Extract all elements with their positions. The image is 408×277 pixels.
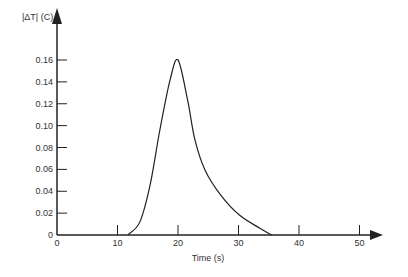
y-tick-label: 0.06 bbox=[35, 164, 53, 174]
y-tick-label: 0.02 bbox=[35, 208, 53, 218]
x-axis-title: Time (s) bbox=[192, 253, 225, 263]
y-tick-label: 0.10 bbox=[35, 121, 53, 131]
x-tick-label: 40 bbox=[294, 238, 304, 248]
y-tick-label: 0.04 bbox=[35, 186, 53, 196]
y-tick-label: 0.12 bbox=[35, 99, 53, 109]
x-axis-arrow-icon bbox=[370, 230, 383, 240]
x-tick-label: 10 bbox=[112, 238, 122, 248]
y-tick-label: 0.16 bbox=[35, 55, 53, 65]
ticks: 0102030405000.020.040.060.080.100.120.14… bbox=[35, 55, 364, 248]
x-tick-label: 0 bbox=[54, 238, 59, 248]
x-tick-label: 50 bbox=[354, 238, 364, 248]
y-axis-title: |ΔT| (C) bbox=[22, 12, 53, 22]
x-tick-label: 30 bbox=[233, 238, 243, 248]
data-line bbox=[128, 59, 272, 235]
chart: 0102030405000.020.040.060.080.100.120.14… bbox=[0, 0, 408, 277]
y-tick-label: 0.14 bbox=[35, 77, 53, 87]
axes bbox=[52, 8, 383, 240]
y-tick-label: 0 bbox=[48, 230, 53, 240]
y-axis-arrow-icon bbox=[52, 8, 62, 24]
x-tick-label: 20 bbox=[173, 238, 183, 248]
y-tick-label: 0.08 bbox=[35, 143, 53, 153]
